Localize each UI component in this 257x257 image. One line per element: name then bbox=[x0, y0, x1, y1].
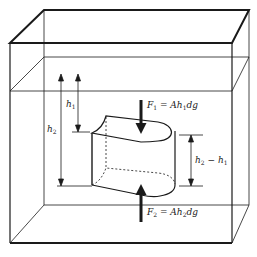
f2-force-arrow bbox=[136, 184, 147, 222]
tank-top-rim bbox=[10, 10, 249, 43]
tank-front-face bbox=[10, 43, 232, 243]
buoyancy-diagram: h1 h2 F1 = Ah1dg h2 − h1 F2 = Ah2dg bbox=[0, 0, 257, 257]
f1-label: F1 = Ah1dg bbox=[146, 100, 198, 111]
water-surface bbox=[10, 57, 249, 91]
h1-label: h1 bbox=[66, 99, 76, 110]
h2-minus-h1-label: h2 − h1 bbox=[195, 155, 228, 166]
h2-label: h2 bbox=[47, 124, 57, 135]
f2-label: F2 = Ah2dg bbox=[146, 207, 198, 218]
submerged-body bbox=[92, 116, 175, 197]
